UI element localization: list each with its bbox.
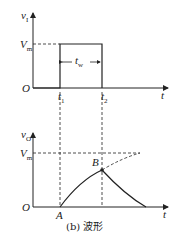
output-waveform-plot: vO Vm O t B A <box>20 128 168 221</box>
input-pulse-plot: vI Vm O t tw t1 t2 <box>20 9 168 105</box>
t1-label: t1 <box>58 90 65 105</box>
top-origin-label: O <box>22 82 30 94</box>
top-vm-label: Vm <box>20 38 33 53</box>
point-b-label: B <box>92 156 99 168</box>
charging-curve <box>60 170 102 207</box>
top-y-label: vI <box>21 9 29 24</box>
point-a-label: A <box>55 209 63 221</box>
waveform-diagram: vI Vm O t tw t1 t2 vO Vm O t B A (b) 波形 <box>0 0 178 245</box>
point-b-marker <box>100 168 104 172</box>
bottom-origin-label: O <box>22 201 30 213</box>
top-x-label: t <box>161 89 165 101</box>
bottom-vm-label: Vm <box>20 147 33 162</box>
bottom-x-label: t <box>163 208 167 220</box>
charging-extension-curve <box>102 153 140 170</box>
rectangular-pulse <box>33 44 102 88</box>
figure-caption: (b) 波形 <box>66 220 103 232</box>
bottom-y-label: vO <box>21 128 31 143</box>
discharging-curve <box>102 170 146 207</box>
